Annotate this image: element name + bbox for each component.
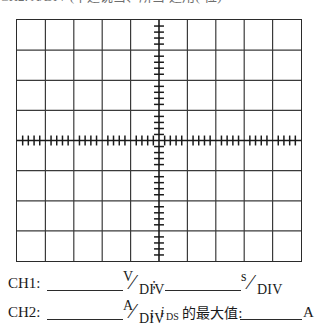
- ch2-amps-slash: ⁄: [131, 301, 135, 322]
- ch2-amps-blank[interactable]: [47, 319, 123, 320]
- current-symbol: i: [160, 303, 164, 321]
- current-subscript: DS: [166, 308, 179, 326]
- ch1-annotation-line: CH1: V ⁄ DIV ; s ⁄ DIV: [0, 270, 326, 298]
- ch2-separator: ;: [150, 303, 154, 321]
- ch1-time-blank[interactable]: [165, 290, 241, 291]
- ch2-max-current-blank[interactable]: [240, 319, 302, 320]
- ch2-answer-unit: A: [303, 303, 314, 321]
- ch1-time-slash: ⁄: [249, 272, 253, 293]
- graticule-grid-lines: [17, 20, 301, 261]
- ch1-separator: ;: [152, 274, 156, 292]
- ch1-volts-slash: ⁄: [131, 272, 135, 293]
- clipped-header-text: CH2: A/DIV (不适说当、所当-适用(-位): [0, 0, 326, 5]
- ch1-time-denominator: DIV: [257, 283, 282, 297]
- ch1-time-numerator: s: [241, 270, 246, 284]
- ch2-annotation-line: CH2: A ⁄ DIV ; i DS 的最大值: A: [0, 299, 326, 327]
- ch2-label: CH2:: [8, 303, 41, 321]
- max-value-question-text: 的最大值:: [182, 304, 243, 322]
- ch1-volts-blank[interactable]: [47, 290, 123, 291]
- ch1-label: CH1:: [8, 274, 41, 292]
- oscilloscope-graticule: [16, 19, 302, 262]
